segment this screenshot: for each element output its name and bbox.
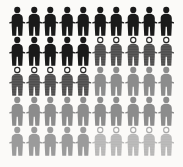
person-figure-icon (59, 66, 76, 96)
person-figure-icon (26, 36, 43, 66)
pictogram-row (0, 126, 183, 156)
person-figure-icon (158, 126, 175, 156)
person-figure-icon (42, 126, 59, 156)
person-figure-icon (125, 96, 142, 126)
person-figure-icon (141, 6, 158, 36)
person-figure-icon (158, 6, 175, 36)
person-figure-icon (92, 6, 109, 36)
person-figure-icon (108, 36, 125, 66)
person-figure-icon (158, 96, 175, 126)
person-figure-icon (59, 36, 76, 66)
person-figure-icon (9, 66, 26, 96)
person-figure-icon (92, 66, 109, 96)
person-figure-icon (125, 36, 142, 66)
person-figure-icon (42, 66, 59, 96)
person-figure-icon (75, 96, 92, 126)
person-figure-icon (42, 6, 59, 36)
person-figure-icon (108, 6, 125, 36)
person-figure-icon (125, 6, 142, 36)
person-figure-icon (92, 96, 109, 126)
person-figure-icon (141, 36, 158, 66)
person-figure-icon (42, 96, 59, 126)
pictogram-row (0, 36, 183, 66)
pictogram-row (0, 96, 183, 126)
person-figure-icon (9, 6, 26, 36)
person-figure-icon (59, 6, 76, 36)
person-figure-icon (9, 126, 26, 156)
person-figure-icon (125, 66, 142, 96)
pictogram-grid (0, 0, 183, 167)
person-figure-icon (59, 96, 76, 126)
pictogram-row (0, 6, 183, 36)
person-figure-icon (26, 126, 43, 156)
person-figure-icon (125, 126, 142, 156)
person-figure-icon (141, 126, 158, 156)
person-figure-icon (108, 126, 125, 156)
person-figure-icon (42, 36, 59, 66)
person-figure-icon (158, 36, 175, 66)
person-figure-icon (158, 66, 175, 96)
person-figure-icon (75, 36, 92, 66)
person-figure-icon (108, 66, 125, 96)
person-figure-icon (92, 36, 109, 66)
pictogram-row (0, 66, 183, 96)
person-figure-icon (141, 66, 158, 96)
person-figure-icon (75, 66, 92, 96)
person-figure-icon (141, 96, 158, 126)
person-figure-icon (108, 96, 125, 126)
person-figure-icon (92, 126, 109, 156)
person-figure-icon (26, 96, 43, 126)
person-figure-icon (26, 6, 43, 36)
person-figure-icon (9, 96, 26, 126)
person-figure-icon (9, 36, 26, 66)
person-figure-icon (75, 126, 92, 156)
pictogram-board (0, 0, 183, 167)
person-figure-icon (75, 6, 92, 36)
person-figure-icon (26, 66, 43, 96)
person-figure-icon (59, 126, 76, 156)
